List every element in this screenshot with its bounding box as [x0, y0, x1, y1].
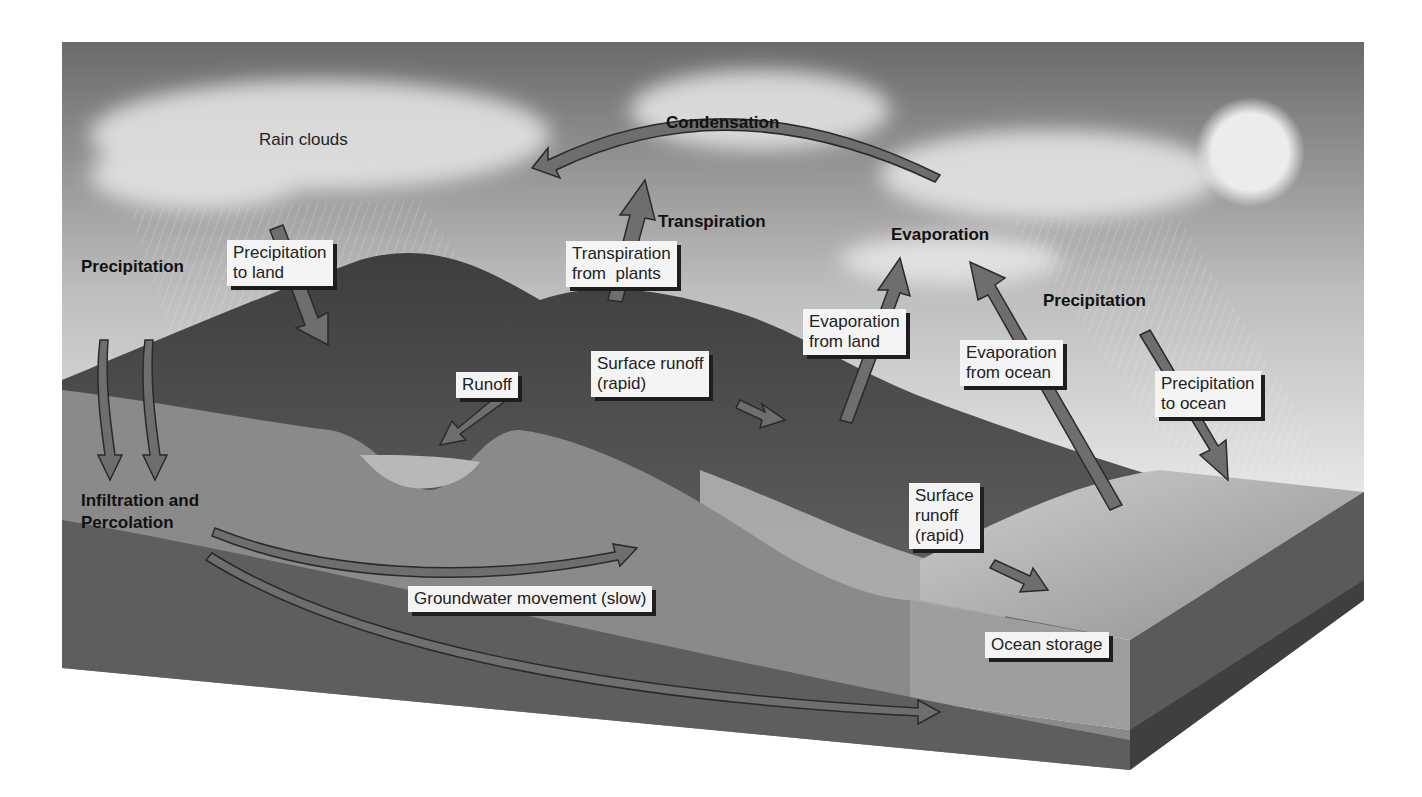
evaporation-label: Evaporation — [891, 225, 989, 245]
groundwater-movement-label: Groundwater movement (slow) — [408, 586, 652, 612]
precipitation-right-label: Precipitation — [1043, 291, 1146, 311]
infiltration-percolation-label: Infiltration and Percolation — [81, 490, 199, 534]
precipitation-to-ocean-label: Precipitation to ocean — [1155, 371, 1261, 417]
water-cycle-diagram: Condensation Transpiration Evaporation P… — [0, 0, 1422, 797]
evaporation-from-land-label: Evaporation from land — [803, 309, 906, 355]
surface-runoff-label-2: Surface runoff (rapid) — [909, 483, 980, 549]
transpiration-from-plants-label: Transpiration from plants — [566, 241, 677, 287]
condensation-label: Condensation — [666, 113, 779, 133]
runoff-label: Runoff — [456, 372, 518, 398]
rain-clouds-label: Rain clouds — [259, 130, 348, 150]
ocean-storage-label: Ocean storage — [985, 632, 1109, 658]
evaporation-from-ocean-label: Evaporation from ocean — [960, 340, 1063, 386]
sun-icon — [1195, 97, 1305, 207]
transpiration-label: Transpiration — [658, 212, 766, 232]
precipitation-left-label: Precipitation — [81, 257, 184, 277]
precipitation-to-land-label: Precipitation to land — [227, 240, 333, 286]
surface-runoff-label-1: Surface runoff (rapid) — [591, 351, 709, 397]
